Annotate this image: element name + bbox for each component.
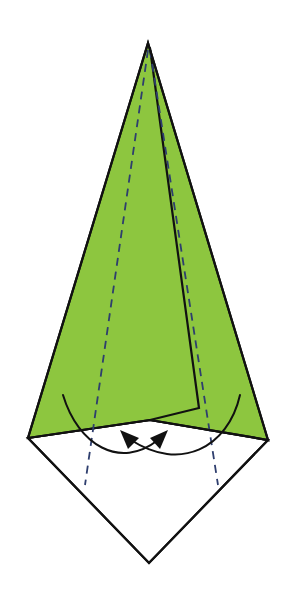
white-paper-lower-diamond <box>28 420 268 563</box>
origami-diagram <box>0 0 290 595</box>
green-kite-flap <box>28 43 268 440</box>
